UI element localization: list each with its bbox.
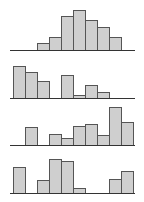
histogram-bar xyxy=(86,86,98,99)
histogram-bar xyxy=(122,123,134,146)
histogram-bar xyxy=(26,128,38,146)
histogram-bar xyxy=(122,172,134,194)
histogram-bar xyxy=(110,108,122,146)
histogram-bar xyxy=(110,38,122,51)
histogram-bar xyxy=(38,181,50,194)
histogram-bar xyxy=(38,82,50,99)
histogram-bar xyxy=(110,180,122,194)
histogram-bar xyxy=(86,21,98,51)
histogram-bar xyxy=(74,11,86,51)
histogram-bar xyxy=(38,44,50,51)
histogram-bar xyxy=(74,127,86,146)
histogram-3 xyxy=(10,108,135,146)
histogram-bar xyxy=(74,189,86,194)
histogram-stack xyxy=(0,0,144,202)
histogram-bar xyxy=(86,125,98,146)
histogram-2 xyxy=(10,67,135,99)
histogram-bar xyxy=(50,160,62,194)
histogram-bar xyxy=(98,28,110,51)
histogram-bar xyxy=(14,168,26,194)
histogram-bar xyxy=(62,139,74,146)
histogram-bar xyxy=(62,76,74,99)
histogram-4 xyxy=(10,160,135,194)
histogram-1 xyxy=(10,11,135,51)
histogram-bar xyxy=(98,136,110,146)
histogram-bar xyxy=(98,93,110,99)
histogram-bar xyxy=(62,162,74,194)
histogram-bar xyxy=(26,73,38,99)
histogram-bar xyxy=(14,67,26,99)
histogram-bar xyxy=(50,135,62,146)
histogram-bar xyxy=(62,17,74,51)
histogram-bar xyxy=(50,38,62,51)
